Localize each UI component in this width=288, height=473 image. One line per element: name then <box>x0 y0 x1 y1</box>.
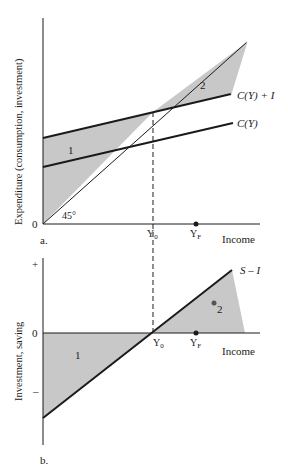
yf-label-b: YF <box>190 337 201 350</box>
angle-label: 45° <box>62 210 76 221</box>
region-2-marker-b <box>212 301 217 306</box>
region-1-label-a: 1 <box>68 144 74 156</box>
region-2-label-a: 2 <box>200 79 206 91</box>
yf-label-a: YF <box>190 228 201 241</box>
full-employment-dot-b <box>194 331 199 336</box>
region-1-label-b: 1 <box>75 349 81 361</box>
plus-tick-label: + <box>32 258 38 270</box>
y-axis-label-b: Investment, saving <box>13 321 24 401</box>
y0-label-b: Y0 <box>153 337 164 350</box>
region-2-shade-b <box>153 270 245 333</box>
x-axis-label-a: Income <box>222 233 255 245</box>
keynesian-cross-diagram: 0 45° 1 2 C(Y) + I C(Y) Y0 YF Income a. … <box>0 0 288 473</box>
caption-b: b. <box>40 454 49 466</box>
aggregate-demand-label: C(Y) + I <box>237 89 276 102</box>
panel-a: 0 45° 1 2 C(Y) + I C(Y) Y0 YF Income a. … <box>13 18 276 246</box>
full-employment-dot-a <box>194 222 199 227</box>
zero-tick-label: 0 <box>32 327 38 339</box>
y-axis-label-a: Expenditure (consumption, investment) <box>13 58 25 225</box>
caption-a: a. <box>40 234 48 246</box>
minus-tick-label: – <box>32 385 39 397</box>
origin-label: 0 <box>32 218 38 230</box>
saving-minus-investment-label: S – I <box>240 264 262 276</box>
aggregate-demand-line <box>43 94 231 138</box>
x-axis-label-b: Income <box>222 345 255 357</box>
region-1-shade-a <box>43 112 153 224</box>
panel-b: + 0 – 1 2 S – I Y0 YF Income b. Investme… <box>13 258 262 466</box>
region-2-label-b: 2 <box>217 303 223 315</box>
consumption-label: C(Y) <box>237 117 258 130</box>
